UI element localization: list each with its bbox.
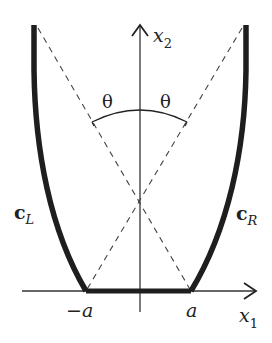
dashed-line-right-to-left (86, 28, 242, 291)
tick-neg-a-label: −a (66, 299, 93, 321)
theta-right-label: θ (160, 91, 171, 112)
tick-pos-a-label: a (186, 299, 197, 321)
theta-left-label: θ (102, 91, 113, 112)
curve-c-left-label: cL (14, 201, 34, 227)
curve-c-left (34, 25, 86, 291)
x1-label: x1 (239, 304, 258, 331)
x2-label: x2 (153, 24, 172, 51)
curve-c-right-label: cR (236, 202, 258, 228)
dashed-line-left-to-right (38, 28, 191, 291)
curve-c-right (191, 25, 246, 291)
diagram-canvas: x2 x1 θ θ cL cR −a a (0, 0, 272, 343)
